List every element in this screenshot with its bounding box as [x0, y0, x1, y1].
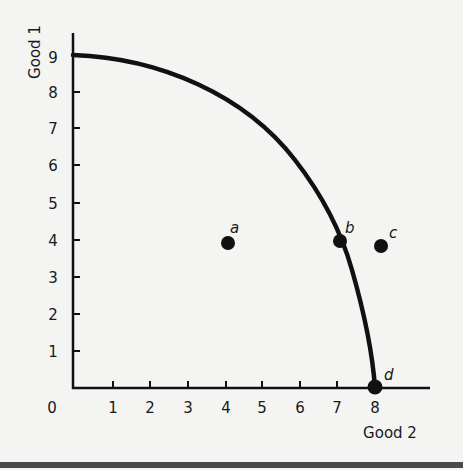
svg-text:7: 7 [332, 399, 342, 417]
point-d [368, 380, 383, 395]
point-a [221, 236, 235, 250]
bottom-rule [0, 462, 463, 468]
svg-text:b: b [345, 219, 355, 237]
svg-text:a: a [230, 219, 239, 237]
svg-text:3: 3 [183, 399, 193, 417]
svg-text:4: 4 [221, 399, 231, 417]
svg-text:1: 1 [48, 343, 58, 361]
svg-text:c: c [389, 224, 398, 242]
ppf-curve [73, 55, 375, 388]
svg-text:5: 5 [257, 399, 267, 417]
y-axis-label: Good 1 [26, 25, 44, 79]
svg-text:2: 2 [48, 306, 58, 324]
svg-text:5: 5 [48, 195, 58, 213]
x-tick-labels: 0 1 2 3 4 5 6 7 8 [47, 399, 380, 417]
y-tick-labels: 9 8 7 6 5 4 3 2 1 [48, 49, 58, 361]
svg-text:1: 1 [108, 399, 118, 417]
svg-text:4: 4 [48, 232, 58, 250]
ppf-chart: 9 8 7 6 5 4 3 2 1 0 1 2 3 4 5 6 7 8 Good… [0, 0, 463, 470]
svg-text:7: 7 [48, 120, 58, 138]
svg-text:8: 8 [370, 399, 380, 417]
svg-text:0: 0 [47, 399, 57, 417]
svg-text:3: 3 [48, 269, 58, 287]
svg-text:6: 6 [295, 399, 305, 417]
svg-text:6: 6 [48, 157, 58, 175]
svg-text:d: d [384, 366, 394, 384]
svg-text:2: 2 [145, 399, 155, 417]
x-axis-label: Good 2 [363, 424, 417, 442]
svg-text:9: 9 [48, 49, 58, 67]
svg-text:8: 8 [48, 84, 58, 102]
point-c [374, 239, 388, 253]
